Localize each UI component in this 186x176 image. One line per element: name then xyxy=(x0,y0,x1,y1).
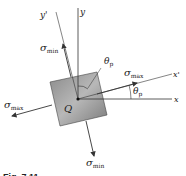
x-prime-axis-label: x' xyxy=(173,70,180,79)
x-axis-label: x xyxy=(174,95,179,104)
sigma-min-top-label: σmin xyxy=(40,42,58,54)
sigma-max-left-label: σmax xyxy=(4,99,24,111)
y-axis-label: y xyxy=(79,7,86,17)
y-prime-axis-label: y' xyxy=(39,10,48,20)
origin-point xyxy=(76,97,79,100)
stress-diagram: y y' x x' Q σmin σmin σmax σmax θp θp Fi… xyxy=(0,0,186,176)
sigma-min-arrow-down xyxy=(86,121,94,156)
theta-p-arc-x xyxy=(129,85,131,99)
sigma-max-right-label: σmax xyxy=(124,67,144,79)
origin-label: Q xyxy=(64,103,72,114)
theta-p-upper-label: θp xyxy=(104,56,113,68)
theta-p-lower-label: θp xyxy=(133,86,142,98)
sigma-max-arrow-right xyxy=(97,83,137,94)
figure-caption: Fig. 7.11 xyxy=(3,172,39,176)
sigma-min-bottom-label: σmin xyxy=(86,157,104,169)
sigma-min-arrow-up xyxy=(63,44,71,77)
